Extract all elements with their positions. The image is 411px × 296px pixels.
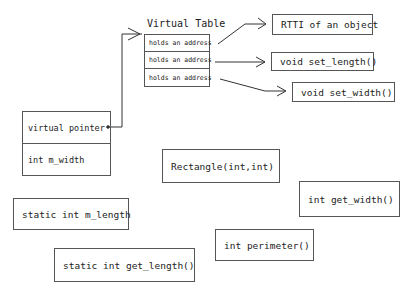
vtable-row: holds an address [145, 35, 209, 52]
vptr-arrowhead [128, 28, 140, 40]
perimeter-box: int perimeter() [215, 229, 314, 261]
vtable-row: holds an address [145, 69, 209, 86]
vtable-row: holds an address [145, 52, 209, 69]
constructor-box: Rectangle(int,int) [162, 149, 280, 183]
virtual-table: holds an address holds an address holds … [144, 34, 210, 87]
m-width-field: int m_width [23, 144, 110, 175]
get-width-box: int get_width() [299, 181, 400, 217]
object-layout: virtual pointer int m_width [22, 111, 111, 176]
static-length-box: static int m_length [13, 198, 129, 230]
virtual-table-title: Virtual Table [147, 18, 225, 29]
set-width-box: void set_width() [292, 82, 395, 102]
rtti-box: RTTI of an object [272, 14, 373, 35]
set-length-box: void set_length() [271, 52, 374, 71]
static-get-length-box: static int get_length() [54, 248, 195, 282]
vptr-arrow [109, 34, 142, 127]
virtual-pointer-field: virtual pointer [23, 112, 110, 144]
